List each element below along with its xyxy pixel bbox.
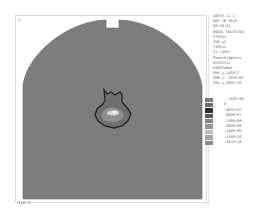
color-swatch [205,124,213,128]
scale-value: .603E+07 [224,108,241,113]
scale-value: 0 [224,102,226,107]
scale-label: 1|e-1 [18,200,30,205]
color-swatch [205,141,213,145]
scale-value: .150E+09 [224,129,241,134]
color-swatch [205,119,213,123]
stress-hotspot-core [112,111,118,114]
legend-smx: SMX =.201E+10 [213,81,270,86]
color-swatch [205,114,213,118]
scale-value: .300E+08 [224,124,241,129]
color-swatch [205,108,213,112]
scale-value: -.702E+08 [224,97,243,102]
scale-value: .347E+10 [224,140,241,145]
color-swatch [205,98,213,102]
scale-value: .150E+10 [224,135,241,140]
color-swatch [205,135,213,139]
color-swatch [205,130,213,134]
legend-header: ANSYS 12.1 NOV 18 2010 08:58:31 NODAL SO… [213,14,270,87]
color-swatch [205,103,213,107]
graphics-viewport[interactable]: 1 1|e-1 [15,15,207,203]
contour-plot [16,16,208,204]
scale-value: .603E+07 [224,113,241,118]
contour-scale: -.702E+08 0 .603E+07 .603E+07 .150E+08 .… [205,97,269,146]
scale-value: .150E+08 [224,119,241,124]
window-number: 1 [18,17,20,22]
scale-row: .347E+10 [205,140,269,145]
